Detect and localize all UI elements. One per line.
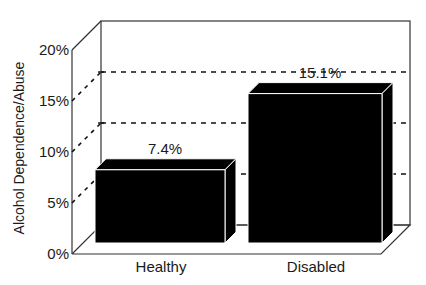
value-label: 15.1% <box>299 64 342 81</box>
y-tick-label: 15% <box>39 92 69 109</box>
y-tick-label: 10% <box>39 143 69 160</box>
y-tick-label: 20% <box>39 41 69 58</box>
x-tick-label: Healthy <box>136 258 187 275</box>
bar-healthy: 7.4% <box>95 140 236 243</box>
x-axis-categories: HealthyDisabled <box>136 258 346 275</box>
x-tick-label: Disabled <box>287 258 345 275</box>
bar-disabled: 15.1% <box>248 64 393 243</box>
bar-chart: 7.4%15.1% 0%5%10%15%20% HealthyDisabled … <box>0 0 426 285</box>
y-tick-label: 5% <box>47 194 69 211</box>
y-axis-ticks: 0%5%10%15%20% <box>39 41 69 262</box>
bars: 7.4%15.1% <box>95 64 393 243</box>
value-label: 7.4% <box>148 140 182 157</box>
y-tick-label: 0% <box>47 245 69 262</box>
y-axis-title: Alcohol Dependence/Abuse <box>11 61 27 234</box>
